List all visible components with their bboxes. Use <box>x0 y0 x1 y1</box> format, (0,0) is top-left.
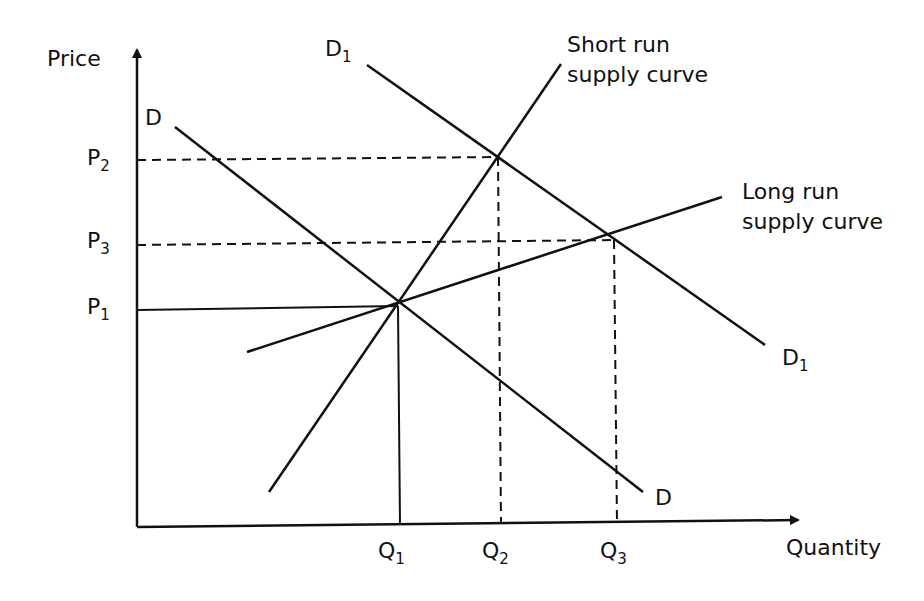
demand-d1-bottom-label: D1 <box>782 347 809 374</box>
p1-sub: 1 <box>100 306 110 324</box>
q2-dashed-line <box>498 157 501 524</box>
supply-demand-diagram <box>0 0 924 601</box>
q2-label: Q2 <box>482 540 509 567</box>
p3-dashed-line <box>137 240 614 245</box>
y-axis-label: Price <box>47 48 101 70</box>
q3-base: Q <box>600 538 617 563</box>
q1-sub: 1 <box>395 550 405 568</box>
short-run-line2: supply curve <box>567 60 708 90</box>
p3-label: P3 <box>87 230 110 257</box>
q3-sub: 3 <box>617 550 627 568</box>
q3-label: Q3 <box>600 540 627 567</box>
d1-top-base: D <box>325 36 342 61</box>
p3-sub: 3 <box>100 240 110 258</box>
q1-label: Q1 <box>378 540 405 567</box>
demand-d1-top-label: D1 <box>325 38 352 65</box>
short-run-supply-label: Short run supply curve <box>567 30 708 89</box>
p1-base: P <box>87 294 100 319</box>
x-axis-label: Quantity <box>786 537 881 559</box>
p1-label: P1 <box>87 296 110 323</box>
q2-base: Q <box>482 538 499 563</box>
q3-dashed-line <box>614 240 617 523</box>
q1-solid-line <box>398 306 400 525</box>
p1-solid-line <box>137 306 398 310</box>
demand-curve-d1 <box>367 65 765 345</box>
long-run-supply-curve <box>247 197 722 352</box>
demand-curve-d <box>175 127 643 492</box>
d1-bottom-base: D <box>782 345 799 370</box>
long-run-line1: Long run <box>742 177 883 207</box>
short-run-line1: Short run <box>567 30 708 60</box>
p2-sub: 2 <box>100 157 110 175</box>
long-run-line2: supply curve <box>742 207 883 237</box>
long-run-supply-label: Long run supply curve <box>742 177 883 236</box>
x-axis <box>137 520 798 527</box>
demand-d-bottom-label: D <box>655 487 672 509</box>
p3-base: P <box>87 228 100 253</box>
p2-label: P2 <box>87 147 110 174</box>
d1-top-sub: 1 <box>342 48 352 66</box>
q1-base: Q <box>378 538 395 563</box>
short-run-supply-curve <box>269 64 561 492</box>
q2-sub: 2 <box>499 550 509 568</box>
p2-base: P <box>87 145 100 170</box>
demand-d-top-label: D <box>145 107 162 129</box>
p2-dashed-line <box>137 157 498 160</box>
d1-bottom-sub: 1 <box>799 357 809 375</box>
